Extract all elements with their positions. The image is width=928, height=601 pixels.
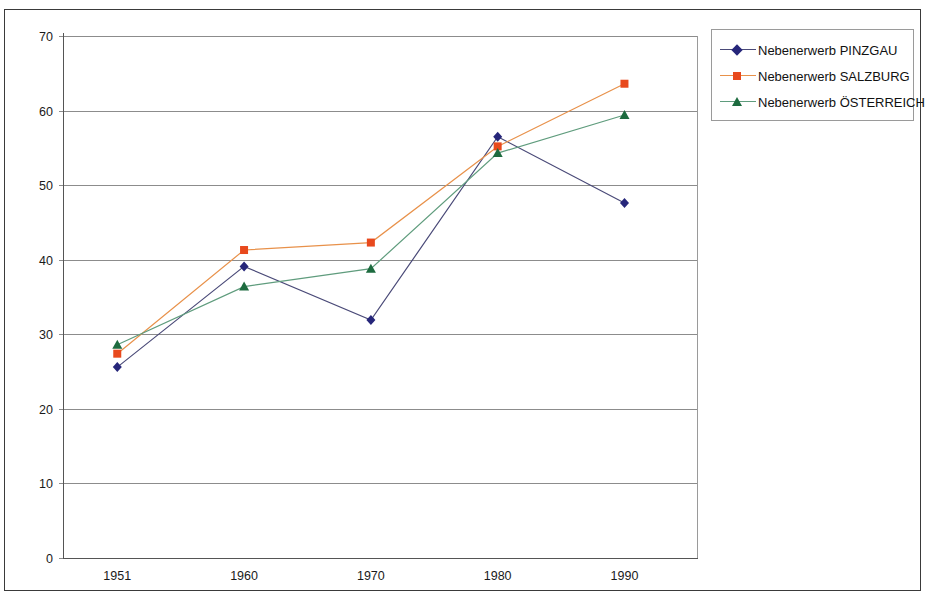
y-tick-label-10: 10 xyxy=(39,477,53,491)
legend-key-pinzgau xyxy=(720,43,756,57)
legend-marker-triangle xyxy=(732,97,742,106)
legend-key-salzburg xyxy=(720,69,756,83)
y-tick-label-60: 60 xyxy=(39,105,53,119)
legend-marker-square xyxy=(733,72,741,80)
data-point-1-1960 xyxy=(240,246,248,254)
y-tick-label-70: 70 xyxy=(39,30,53,44)
legend-label-pinzgau: Nebenerwerb PINZGAU xyxy=(756,43,897,58)
y-axis-tick-labels: 010203040506070 xyxy=(39,30,53,566)
data-point-2-1951 xyxy=(112,340,122,349)
y-tick-label-0: 0 xyxy=(46,552,53,566)
data-point-1-1970 xyxy=(367,239,375,247)
legend-key-oesterreich xyxy=(720,95,756,109)
x-axis-tick-labels: 19511960197019801990 xyxy=(103,569,638,583)
series-line-1 xyxy=(117,84,624,354)
y-tick-label-30: 30 xyxy=(39,328,53,342)
data-point-0-1951 xyxy=(113,362,122,372)
legend-item-oesterreich[interactable]: Nebenerwerb ÖSTERREICH xyxy=(720,89,913,115)
series-line-0 xyxy=(117,137,624,367)
legend-item-pinzgau[interactable]: Nebenerwerb PINZGAU xyxy=(720,37,913,63)
legend-label-oesterreich: Nebenerwerb ÖSTERREICH xyxy=(756,95,925,110)
data-point-0-1980 xyxy=(493,132,502,142)
x-tick-label-1990: 1990 xyxy=(611,569,639,583)
gridlines-group xyxy=(59,37,698,559)
data-point-0-1970 xyxy=(366,315,375,325)
data-point-0-1990 xyxy=(620,198,629,208)
x-tick-label-1960: 1960 xyxy=(230,569,258,583)
legend-marker-diamond xyxy=(731,44,742,55)
data-point-1-1951 xyxy=(113,350,121,358)
y-tick-label-20: 20 xyxy=(39,403,53,417)
chart-page: 010203040506070 19511960197019801990 Neb… xyxy=(0,0,928,601)
y-tick-label-40: 40 xyxy=(39,254,53,268)
legend-item-salzburg[interactable]: Nebenerwerb SALZBURG xyxy=(720,63,913,89)
series-line-2 xyxy=(117,115,624,345)
chart-legend: Nebenerwerb PINZGAU Nebenerwerb SALZBURG… xyxy=(711,29,914,121)
x-tick-label-1970: 1970 xyxy=(357,569,385,583)
data-point-1-1990 xyxy=(620,80,628,88)
series-markers-group xyxy=(112,80,629,372)
y-tick-label-50: 50 xyxy=(39,179,53,193)
x-tick-label-1951: 1951 xyxy=(103,569,131,583)
data-point-0-1960 xyxy=(240,261,249,271)
legend-label-salzburg: Nebenerwerb SALZBURG xyxy=(756,69,910,84)
x-tick-label-1980: 1980 xyxy=(484,569,512,583)
